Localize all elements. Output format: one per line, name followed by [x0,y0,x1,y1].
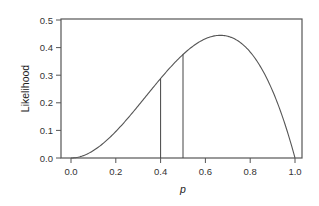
likelihood-chart: 0.00.10.20.30.40.50.00.20.40.60.81.0pLik… [0,0,319,206]
x-tick-label: 0.8 [244,166,257,177]
x-tick-label: 0.4 [154,166,167,177]
x-tick-label: 1.0 [288,166,301,177]
plot-area: 0.00.10.20.30.40.50.00.20.40.60.81.0pLik… [19,15,302,196]
y-tick-label: 0.4 [40,42,53,53]
axes-frame [61,19,302,158]
x-tick-label: 0.0 [64,166,77,177]
x-tick-label: 0.2 [109,166,122,177]
x-axis-label: p [179,183,186,195]
y-tick-label: 0.3 [40,70,53,81]
y-tick-label: 0.2 [40,97,53,108]
y-tick-label: 0.0 [40,153,53,164]
y-tick-label: 0.5 [40,15,53,26]
y-tick-label: 0.1 [40,125,53,136]
x-tick-label: 0.6 [199,166,212,177]
y-axis-label: Likelihood [19,65,31,112]
